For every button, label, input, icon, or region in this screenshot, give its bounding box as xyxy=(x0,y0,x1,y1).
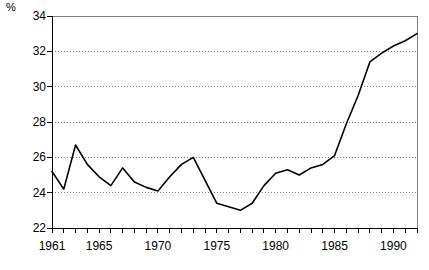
gridlines xyxy=(52,51,417,192)
axis-ticks xyxy=(47,16,417,233)
plot-area xyxy=(0,0,429,270)
line-chart: % 22242628303234 19611965197019751980198… xyxy=(0,0,429,270)
